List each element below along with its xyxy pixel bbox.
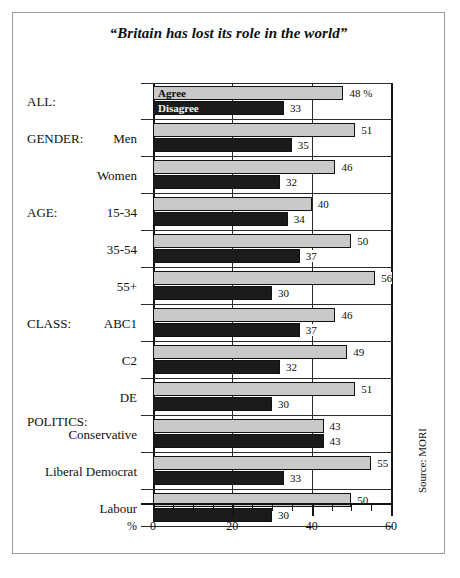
bar-value-agree: 46 xyxy=(337,161,352,173)
bar-value-agree: 48 % xyxy=(345,87,372,99)
bar-value-disagree: 33 xyxy=(286,472,301,484)
tick-label-0: 0 xyxy=(150,519,156,534)
bar-value-agree: 43 xyxy=(326,420,341,432)
tick-35 xyxy=(292,505,293,511)
bar-disagree[interactable]: Disagree xyxy=(153,101,284,115)
bar-agree[interactable] xyxy=(153,419,324,433)
bar-agree[interactable] xyxy=(153,271,375,285)
bar-value-agree: 46 xyxy=(337,309,352,321)
bar-row-agree: 43 xyxy=(153,419,391,433)
bar-agree[interactable] xyxy=(153,308,335,322)
tick-30 xyxy=(272,505,273,511)
bar-value-agree: 51 xyxy=(357,124,372,136)
bar-group: Agree48 %Disagree33 xyxy=(141,83,393,120)
tick-50 xyxy=(351,505,352,511)
bar-value-agree: 40 xyxy=(314,198,329,210)
bar-value-agree: 49 xyxy=(349,346,364,358)
tick-55 xyxy=(371,505,372,511)
bar-value-disagree: 30 xyxy=(274,287,289,299)
bar-group: 4632 xyxy=(141,157,393,194)
category-label: 15-34 xyxy=(13,205,137,221)
x-axis: % 0204060 xyxy=(141,503,393,539)
bar-group: 5135 xyxy=(141,120,393,157)
bar-row-disagree: 37 xyxy=(153,249,391,263)
category-label: DE xyxy=(13,390,137,406)
tick-20 xyxy=(232,505,234,516)
bar-row-disagree: 32 xyxy=(153,360,391,374)
tick-5 xyxy=(173,505,174,511)
bar-disagree[interactable] xyxy=(153,138,292,152)
bar-disagree[interactable] xyxy=(153,286,272,300)
plot-area: Agree48 %Disagree33513546324034503756304… xyxy=(141,83,393,503)
source-note: Source: MORI xyxy=(416,428,428,493)
legend-label-disagree: Disagree xyxy=(158,102,199,114)
bar-disagree[interactable] xyxy=(153,175,280,189)
category-label: ABC1 xyxy=(13,316,137,332)
bar-row-agree: 46 xyxy=(153,308,391,322)
bar-row-agree: 40 xyxy=(153,197,391,211)
bar-value-agree: 55 xyxy=(373,457,388,469)
category-label: Conservative xyxy=(13,427,137,443)
bar-group: 5533 xyxy=(141,453,393,490)
category-label: Labour xyxy=(13,501,137,517)
bar-value-agree: 56 xyxy=(377,272,392,284)
bar-group: 4637 xyxy=(141,305,393,342)
bar-group: 5130 xyxy=(141,379,393,416)
bar-group: 5037 xyxy=(141,231,393,268)
bar-row-disagree: 37 xyxy=(153,323,391,337)
bar-disagree[interactable] xyxy=(153,249,300,263)
bar-agree[interactable] xyxy=(153,456,371,470)
bar-disagree[interactable] xyxy=(153,434,324,448)
bar-row-agree: 51 xyxy=(153,123,391,137)
bar-group: 4932 xyxy=(141,342,393,379)
tick-15 xyxy=(213,505,214,511)
group-heading: ALL: xyxy=(13,94,137,110)
figure-frame: “Britain has lost its role in the world”… xyxy=(12,12,445,554)
group-separator xyxy=(141,83,393,84)
bar-value-disagree: 34 xyxy=(290,213,305,225)
bar-row-disagree: Disagree33 xyxy=(153,101,391,115)
bar-value-disagree: 32 xyxy=(282,361,297,373)
bar-row-agree: 55 xyxy=(153,456,391,470)
bar-value-disagree: 32 xyxy=(282,176,297,188)
tick-label-60: 60 xyxy=(385,519,397,534)
tick-60 xyxy=(391,505,393,516)
bar-row-disagree: 33 xyxy=(153,471,391,485)
tick-10 xyxy=(193,505,194,511)
bar-agree[interactable] xyxy=(153,234,351,248)
bar-agree[interactable] xyxy=(153,160,335,174)
bar-row-disagree: 43 xyxy=(153,434,391,448)
bar-value-agree: 51 xyxy=(357,383,372,395)
bar-disagree[interactable] xyxy=(153,212,288,226)
percent-axis-symbol: % xyxy=(127,519,137,534)
bar-row-agree: 51 xyxy=(153,382,391,396)
bar-disagree[interactable] xyxy=(153,360,280,374)
tick-45 xyxy=(332,505,333,511)
bar-row-agree: 46 xyxy=(153,160,391,174)
category-label: Men xyxy=(13,131,137,147)
bar-row-disagree: 35 xyxy=(153,138,391,152)
bar-disagree[interactable] xyxy=(153,323,300,337)
category-label: Liberal Democrat xyxy=(13,464,137,480)
category-label: Women xyxy=(13,168,137,184)
bar-agree[interactable] xyxy=(153,123,355,137)
category-label: 35-54 xyxy=(13,242,137,258)
chart-title: “Britain has lost its role in the world” xyxy=(13,25,444,42)
bar-disagree[interactable] xyxy=(153,471,284,485)
bar-disagree[interactable] xyxy=(153,397,272,411)
bar-agree[interactable]: Agree xyxy=(153,86,343,100)
bar-group: 5630 xyxy=(141,268,393,305)
category-label: C2 xyxy=(13,353,137,369)
bar-agree[interactable] xyxy=(153,197,312,211)
bar-value-disagree: 33 xyxy=(286,102,301,114)
bar-group: 4343 xyxy=(141,416,393,453)
bar-value-disagree: 30 xyxy=(274,398,289,410)
bar-agree[interactable] xyxy=(153,382,355,396)
bar-agree[interactable] xyxy=(153,345,347,359)
tick-0 xyxy=(153,505,155,516)
bar-value-disagree: 43 xyxy=(326,435,341,447)
bar-row-disagree: 32 xyxy=(153,175,391,189)
bar-row-disagree: 30 xyxy=(153,286,391,300)
bar-row-disagree: 34 xyxy=(153,212,391,226)
bar-value-disagree: 37 xyxy=(302,250,317,262)
